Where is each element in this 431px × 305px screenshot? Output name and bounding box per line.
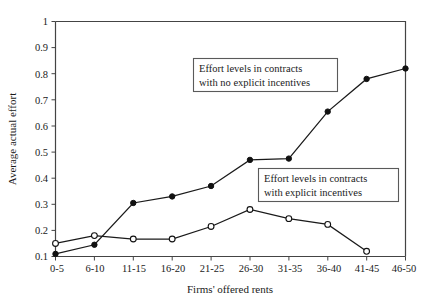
data-point-marker [247, 157, 252, 162]
data-point-marker [131, 200, 136, 205]
y-tick-label-9: 1 [43, 16, 48, 27]
data-point-marker [364, 248, 370, 254]
annotation-explicit-incentives: Effort levels in contracts with explicit… [259, 169, 399, 202]
data-point-marker [247, 207, 253, 213]
y-tick-label-1: 0.2 [35, 225, 48, 236]
x-tick-labels: 0-5 6-10 11-15 16-20 21-25 26-30 31-35 3… [50, 263, 416, 274]
annotation-explicit-incentives-line2: with explicit incentives [264, 187, 362, 198]
x-tick-label-5: 26-30 [239, 263, 264, 274]
x-tick-label-3: 16-20 [161, 263, 186, 274]
chart-figure: 0.1 0.2 0.3 0.4 0.5 0.6 0.7 0.8 0.9 1 [0, 0, 431, 305]
data-point-marker [364, 76, 369, 81]
data-point-marker [169, 236, 175, 242]
y-tick-label-6: 0.7 [35, 95, 48, 106]
data-point-marker [169, 194, 174, 199]
data-point-marker [53, 241, 59, 247]
annotation-no-incentives-line2: with no explicit incentives [199, 77, 310, 88]
y-tick-label-5: 0.6 [35, 121, 48, 132]
plot-axes [56, 22, 406, 257]
data-point-marker [208, 224, 214, 230]
series-line-0 [56, 69, 406, 254]
data-point-marker [91, 233, 97, 239]
x-tick-label-4: 21-25 [200, 263, 225, 274]
series-line-1 [56, 210, 367, 252]
y-tick-label-7: 0.8 [35, 69, 48, 80]
annotation-no-incentives: Effort levels in contracts with no expli… [194, 59, 338, 92]
y-axis-title: Average actual effort [6, 93, 18, 185]
x-tick-label-1: 6-10 [85, 263, 104, 274]
series-explicit-incentives [53, 66, 408, 257]
y-tick-label-8: 0.9 [35, 42, 48, 53]
x-tick-label-0: 0-5 [50, 263, 64, 274]
annotation-explicit-incentives-line1: Effort levels in contracts [264, 173, 367, 184]
data-point-marker [53, 251, 58, 256]
x-tick-label-7: 36-40 [317, 263, 342, 274]
data-point-marker [325, 109, 330, 114]
x-tick-label-9: 46-50 [392, 263, 417, 274]
x-tick-label-2: 11-15 [122, 263, 146, 274]
data-point-marker [130, 236, 136, 242]
y-tick-label-0: 0.1 [35, 251, 48, 262]
series-layer [53, 66, 409, 257]
data-point-marker [325, 221, 331, 227]
y-tick-label-2: 0.3 [35, 199, 48, 210]
data-point-marker [286, 156, 291, 161]
y-tick-label-3: 0.4 [35, 173, 49, 184]
y-tick-labels: 0.1 0.2 0.3 0.4 0.5 0.6 0.7 0.8 0.9 1 [35, 16, 49, 262]
x-tick-label-6: 31-35 [278, 263, 303, 274]
x-axis-title: Firms' offered rents [187, 283, 273, 295]
x-tick-label-8: 41-45 [355, 263, 380, 274]
data-point-marker [403, 66, 408, 71]
annotation-no-incentives-line1: Effort levels in contracts [199, 63, 302, 74]
effort-vs-rents-line-chart: 0.1 0.2 0.3 0.4 0.5 0.6 0.7 0.8 0.9 1 [0, 0, 431, 305]
y-tick-label-4: 0.5 [35, 147, 48, 158]
series-no-explicit-incentives [53, 207, 370, 255]
data-point-marker [286, 216, 292, 222]
data-point-marker [208, 183, 213, 188]
axis-frame [56, 22, 406, 257]
data-point-marker [92, 242, 97, 247]
